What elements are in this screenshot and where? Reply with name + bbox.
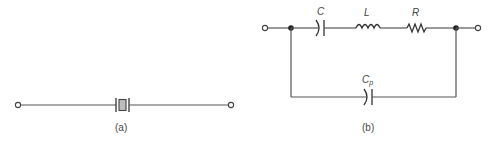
label-resistor-r: R — [412, 8, 419, 18]
quartz-crystal-icon — [116, 98, 129, 112]
inductor-l-icon — [356, 25, 380, 29]
label-inductor-l: L — [364, 8, 370, 18]
circuit-diagram — [0, 0, 497, 141]
caption-a: (a) — [115, 123, 127, 133]
label-capacitor-c: C — [317, 7, 324, 17]
resistor-r-icon — [407, 24, 426, 32]
terminal-icon — [262, 25, 267, 30]
label-capacitor-cp: Cp — [362, 75, 373, 85]
terminal-icon — [228, 102, 233, 107]
label-cp-subscript: p — [369, 79, 373, 86]
terminal-icon — [15, 102, 20, 107]
caption-b: (b) — [362, 123, 374, 133]
panel-b-equivalent-circuit — [262, 20, 480, 105]
terminal-icon — [475, 25, 480, 30]
panel-a-crystal-circuit — [15, 98, 233, 112]
